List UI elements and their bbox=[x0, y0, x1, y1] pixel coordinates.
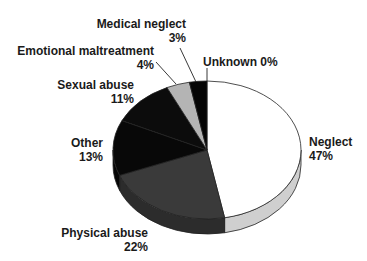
label-medical-neglect-name: Medical neglect bbox=[96, 17, 186, 31]
label-medical-neglect: Medical neglect 3% bbox=[96, 17, 186, 45]
label-emotional-maltreatment: Emotional maltreatment 4% bbox=[10, 44, 154, 72]
label-physical-abuse: Physical abuse 22% bbox=[60, 226, 148, 254]
label-unknown-name: Unknown bbox=[203, 55, 257, 69]
leader-medical-line bbox=[180, 48, 196, 82]
label-physical-abuse-value: 22% bbox=[60, 240, 148, 254]
label-sexual-abuse-value: 11% bbox=[40, 92, 134, 106]
label-unknown-value: 0% bbox=[260, 55, 277, 69]
label-other-name: Other bbox=[50, 136, 103, 150]
label-medical-neglect-value: 3% bbox=[96, 31, 186, 45]
label-neglect-name: Neglect bbox=[309, 135, 352, 149]
label-sexual-abuse-name: Sexual abuse bbox=[40, 78, 134, 92]
label-sexual-abuse: Sexual abuse 11% bbox=[40, 78, 134, 106]
label-other: Other 13% bbox=[50, 136, 103, 164]
label-physical-abuse-name: Physical abuse bbox=[60, 226, 148, 240]
label-neglect-value: 47% bbox=[309, 149, 352, 163]
label-emotional-maltreatment-value: 4% bbox=[10, 58, 154, 72]
label-neglect: Neglect 47% bbox=[309, 135, 352, 163]
label-emotional-maltreatment-name: Emotional maltreatment bbox=[10, 44, 154, 58]
label-unknown: Unknown 0% bbox=[203, 55, 278, 69]
label-other-value: 13% bbox=[50, 150, 103, 164]
leader-emotional-line bbox=[156, 62, 176, 84]
